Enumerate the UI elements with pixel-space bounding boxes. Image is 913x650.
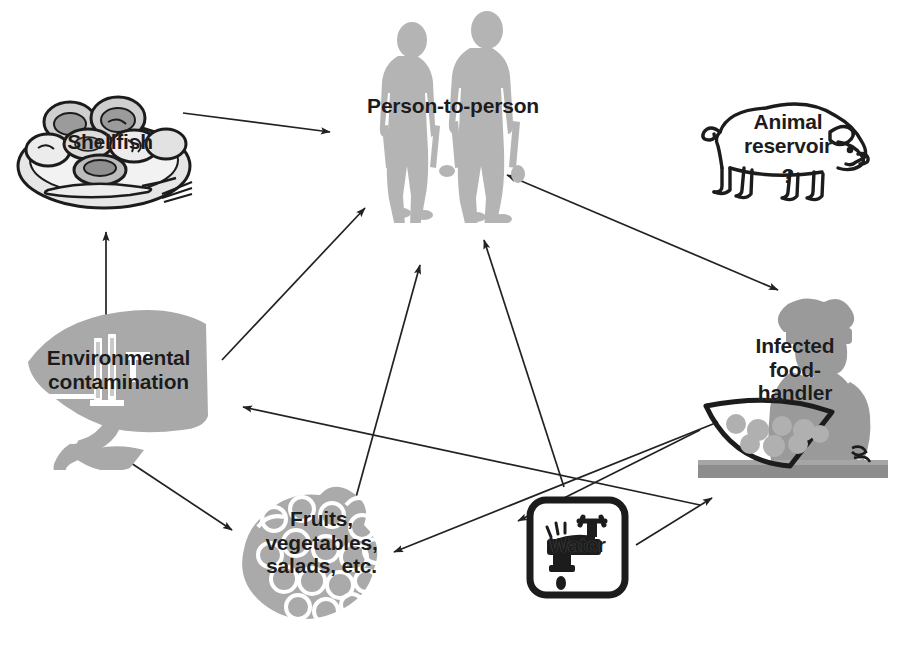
node-water: Water <box>525 495 630 600</box>
node-fruits-vegetables-salads: Fruits, vegetables, salads, etc. <box>228 483 413 638</box>
node-fruits-vegetables-salads-label: Fruits, vegetables, salads, etc. <box>214 507 429 578</box>
node-shellfish: Shellfish <box>12 82 204 214</box>
node-person-to-person: Person-to-person <box>352 8 552 223</box>
node-environmental-contamination-label: Environmental contamination <box>16 346 221 393</box>
node-animal-reservoir: Animal reservoir ? <box>690 98 890 206</box>
node-environmental-contamination: Environmental contamination <box>10 300 220 470</box>
diagram-canvas: Person-to-person <box>0 0 913 650</box>
node-water-label: Water <box>515 533 640 557</box>
node-person-to-person-label: Person-to-person <box>308 94 598 118</box>
node-infected-food-handler: Infected food- handler <box>692 296 897 486</box>
edge-water-to-person <box>484 240 564 487</box>
node-animal-reservoir-question-mark: ? <box>708 164 868 188</box>
edge-fruits-to-person <box>353 265 420 508</box>
node-infected-food-handler-label: Infected food- handler <box>720 334 870 405</box>
node-shellfish-label: Shellfish <box>22 130 198 154</box>
edge-environment-to-shellfish-person <box>222 208 365 360</box>
edge-water-to-handler <box>636 498 712 545</box>
node-animal-reservoir-label: Animal reservoir <box>708 110 868 157</box>
